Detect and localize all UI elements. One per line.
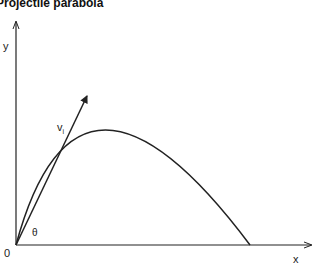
- y-axis-label: y: [3, 40, 9, 52]
- velocity-vector-arrow: [16, 96, 87, 245]
- velocity-subscript: i: [63, 128, 65, 135]
- parabola-trajectory: [16, 130, 250, 245]
- projectile-diagram: [0, 0, 314, 265]
- angle-label: θ: [32, 227, 38, 238]
- x-axis-label: x: [293, 253, 299, 265]
- origin-label: 0: [4, 247, 10, 259]
- velocity-label: vi: [57, 121, 64, 135]
